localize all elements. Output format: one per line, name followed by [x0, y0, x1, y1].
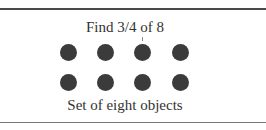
dot-r1-c3: [134, 44, 151, 61]
dot-r1-c2: [97, 44, 114, 61]
figure-title: Find 3/4 of 8: [0, 18, 250, 36]
dot-r2-c1: [60, 74, 77, 91]
dot-r1-c4: [172, 44, 189, 61]
dot-r2-c4: [172, 74, 189, 91]
figure-caption: Set of eight objects: [0, 96, 250, 114]
dot-r2-c2: [97, 74, 114, 91]
marker-tick-icon: [142, 37, 143, 41]
dot-r1-c1: [60, 44, 77, 61]
dot-r2-c3: [134, 74, 151, 91]
top-rule: [0, 8, 266, 10]
bottom-rule: [0, 122, 266, 123]
